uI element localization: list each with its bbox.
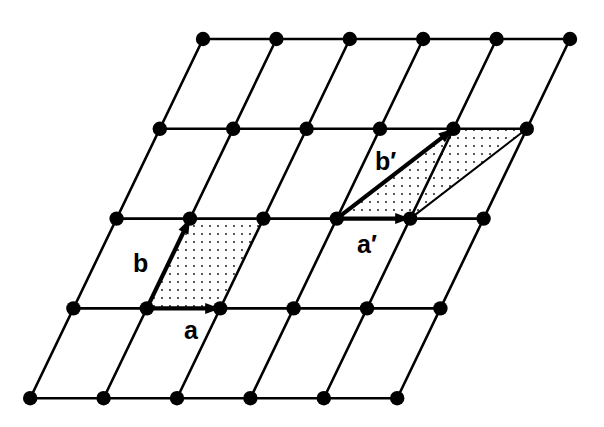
primitive-cell bbox=[147, 219, 264, 309]
lattice-point bbox=[343, 32, 357, 46]
lattice-point bbox=[360, 301, 374, 315]
lattice-point bbox=[96, 391, 110, 405]
lattice-point bbox=[153, 122, 167, 136]
vector-a-prime-label: a′ bbox=[357, 230, 377, 258]
vector-b-label: b bbox=[133, 249, 148, 277]
lattice-point bbox=[373, 122, 387, 136]
lattice-point bbox=[170, 391, 184, 405]
lattice-point bbox=[390, 391, 404, 405]
lattice-diagram-svg: a b a′ b′ bbox=[0, 0, 604, 427]
lattice-point bbox=[433, 301, 447, 315]
lattice-point bbox=[23, 391, 37, 405]
lattice-point bbox=[476, 211, 490, 225]
lattice-point bbox=[489, 32, 503, 46]
lattice-point bbox=[66, 301, 80, 315]
lattice-point bbox=[196, 32, 210, 46]
lattice-point bbox=[416, 32, 430, 46]
lattice-point bbox=[109, 211, 123, 225]
lattice-point bbox=[226, 122, 240, 136]
lattice-point bbox=[563, 32, 577, 46]
lattice-point bbox=[520, 122, 534, 136]
lattice-figure: a b a′ b′ bbox=[0, 0, 604, 427]
lattice-point bbox=[286, 301, 300, 315]
lattice-point bbox=[256, 211, 270, 225]
vector-a-label: a bbox=[184, 316, 199, 344]
lattice-point bbox=[243, 391, 257, 405]
lattice-point bbox=[299, 122, 313, 136]
lattice-point bbox=[269, 32, 283, 46]
lattice-point bbox=[317, 391, 331, 405]
vector-b-prime-label: b′ bbox=[375, 147, 396, 175]
